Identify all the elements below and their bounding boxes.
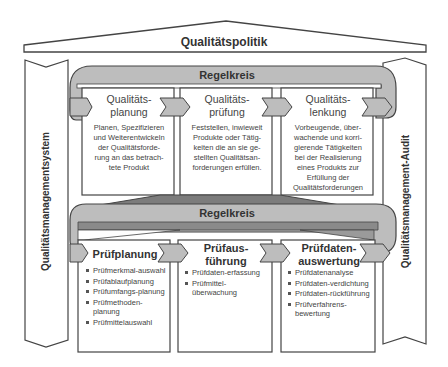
list-item: Prüfverfahrens-bewertung [288,300,372,319]
desc-line: rung an das betrach- [84,153,174,163]
box-title-line-2: planung [84,106,174,119]
pruefausfuehrung-item-list: Prüfdaten-erfassung Prüfmittel-überwachu… [185,268,269,299]
box-title-line-1: Qualitäts- [282,93,374,106]
box-title-line-1: Qualitäts- [181,93,273,106]
desc-line: gierende Tätigkeiten [282,143,374,153]
desc-line: und Weiterentwickeln [84,133,174,143]
lower-box-pruefausfuehrung-title: Prüfaus- führung [180,242,272,268]
diagram-frame [0,0,448,367]
box-description: Vorbeugende, über- wachende und korri- g… [282,123,374,193]
lower-box-pruefdatenauswertung-title: Prüfdaten- auswertung [283,242,375,268]
list-item: Prüfmerkmal-auswahl [86,266,168,276]
desc-line: bei der Realisierung [282,153,374,163]
list-item: Prüfmittel-überwachung [185,279,269,298]
desc-line: tete Produkt [84,163,174,173]
lower-box-pruefplanung-title: Prüfplanung [80,248,170,261]
pruefdatenauswertung-item-list: Prüfdatenanalyse Prüfdaten-verdichtung P… [288,268,372,320]
list-item: Prüfablaufplanung [86,277,168,287]
desc-line: stellten Qualitätsan- [181,153,273,163]
box-title-line-1: Qualitäts- [84,93,174,106]
left-pillar-label: Qualitätsmanagementsystem [40,132,51,272]
list-item: Prüfdatenanalyse [288,268,372,278]
desc-line: forderungen erfüllen. [181,163,273,173]
upper-loop-title: Regelkreis [82,69,372,81]
list-item: Prüfdaten-verdichtung [288,279,372,289]
roof-title: Qualitätspolitik [0,35,448,49]
desc-line: Erfüllung der [282,173,374,183]
lower-inner-wedge-right [300,230,374,240]
upper-box-qualitaetspruefung: Qualitäts- prüfung Feststellen, inwiewei… [181,93,273,173]
box-title-line-1: Prüfdaten- [283,242,375,255]
desc-line: eines Produkts zur [282,163,374,173]
desc-line: Planen, Spezifizieren [84,123,174,133]
desc-line: keiten die an sie ge- [181,143,273,153]
list-item: Prüfumfangs-planung [86,287,168,297]
pruefplanung-item-list: Prüfmerkmal-auswahl Prüfablaufplanung Pr… [86,266,168,328]
list-item: Prüfdaten-erfassung [185,268,269,278]
desc-line: Feststellen, inwieweit [181,123,273,133]
box-title-line-2: lenkung [282,106,374,119]
lower-loop-band [78,222,378,230]
upper-box-qualitaetsplanung: Qualitäts- planung Planen, Spezifizieren… [84,93,174,173]
desc-line: der Qualitätsforde- [84,143,174,153]
desc-line: Produkte oder Tätig- [181,133,273,143]
lower-inner-wedge-left [78,230,180,240]
upper-box-qualitaetslenkung: Qualitäts- lenkung Vorbeugende, über- wa… [282,93,374,193]
lower-loop-title: Regelkreis [82,207,372,219]
box-title-line-2: führung [180,255,272,268]
right-pillar-label: Qualitätsmanagement-Audit [400,132,411,272]
box-description: Planen, Spezifizieren und Weiterentwicke… [84,123,174,173]
desc-line: Vorbeugende, über- [282,123,374,133]
box-title-line-2: auswertung [283,255,375,268]
box-title-line-2: prüfung [181,106,273,119]
desc-line: Qualitätsforderungen [282,183,374,193]
desc-line: wachende und korri- [282,133,374,143]
box-description: Feststellen, inwieweit Produkte oder Tät… [181,123,273,173]
list-item: Prüfdaten-rückführung [288,289,372,299]
box-title-line-1: Prüfaus- [180,242,272,255]
list-item: Prüfmethoden-planung [86,298,168,317]
list-item: Prüfmittelauswahl [86,318,168,328]
